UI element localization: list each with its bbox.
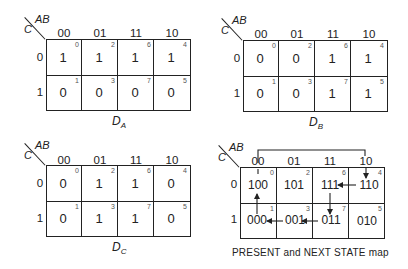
state-map-caption: PRESENT and NEXT STATE map [232, 247, 389, 258]
transition-arrows [0, 0, 408, 269]
state-map: AB C 00 01 11 10 0 1 0 2 6 4 1 3 7 5 100… [0, 0, 408, 269]
wrap-bracket [258, 150, 365, 163]
